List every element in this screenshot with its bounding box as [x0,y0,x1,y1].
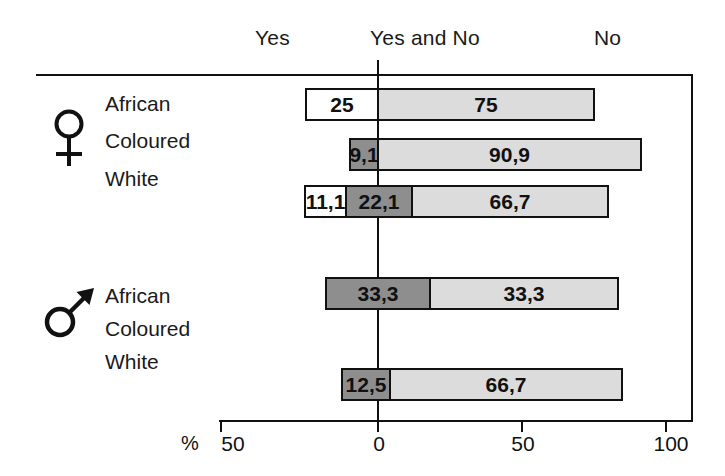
segment-yes-and-no: 22,1 [345,185,413,218]
bar-female-african: 25 75 [305,88,595,121]
x-tick-label-100: 100 [653,432,688,456]
x-tick-mark-minus50 [220,421,222,432]
row-label-female-coloured: Coloured [105,129,190,153]
bar-female-coloured: 9,1 90,9 [349,138,642,171]
x-tick-label-0: 0 [373,432,385,456]
x-tick-mark-50 [521,421,523,432]
segment-yes-and-no: 12,5 [341,368,391,401]
plot-right-border [691,74,693,422]
female-symbol-icon [46,108,92,174]
x-tick-mark-100 [665,421,667,432]
row-label-male-coloured: Coloured [105,317,190,341]
x-tick-label-50: 50 [511,432,534,456]
segment-no: 66,7 [411,185,609,218]
row-label-male-white: White [105,350,159,374]
legend-label-yes-and-no: Yes and No [370,26,480,50]
segment-yes: 25 [305,88,379,121]
legend-label-no: No [594,26,621,50]
segment-no: 90,9 [377,138,642,171]
segment-no: 75 [377,88,595,121]
x-tick-label-minus50: 50 [221,432,244,456]
bar-male-african: 33,3 33,3 [325,277,619,310]
x-axis-unit-label: % [181,432,199,455]
segment-no: 33,3 [429,277,619,310]
x-axis-line [219,420,693,422]
plot-top-border [36,74,693,76]
segment-no: 66,7 [389,368,623,401]
segment-yes-and-no: 33,3 [325,277,431,310]
x-tick-mark-0 [377,421,379,432]
legend-label-yes: Yes [255,26,290,50]
bar-male-white: 12,5 66,7 [341,368,623,401]
row-label-female-african: African [105,92,170,116]
row-label-female-white: White [105,167,159,191]
segment-yes-and-no: 9,1 [349,138,379,171]
segment-yes: 11,1 [304,185,347,218]
bar-female-white: 11,1 22,1 66,7 [304,185,609,218]
stacked-bar-chart: Yes Yes and No No African Coloured White… [0,0,725,476]
row-label-male-african: African [105,284,170,308]
male-symbol-icon [40,280,100,346]
